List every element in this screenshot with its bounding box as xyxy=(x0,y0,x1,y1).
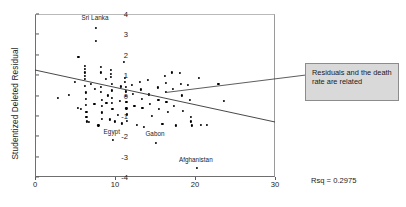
data-point xyxy=(165,91,167,93)
data-point xyxy=(94,88,96,90)
data-point xyxy=(141,98,143,100)
data-point xyxy=(167,111,169,113)
data-point xyxy=(101,105,103,107)
data-point xyxy=(180,83,182,85)
data-points-layer xyxy=(36,15,274,176)
data-point xyxy=(164,75,166,77)
data-point xyxy=(172,88,174,90)
data-point xyxy=(191,124,193,126)
data-point xyxy=(84,78,86,80)
data-point xyxy=(196,167,198,169)
y-tick-label: 1 xyxy=(98,71,128,80)
data-point xyxy=(200,124,202,126)
data-point xyxy=(68,94,70,96)
y-tick-mark xyxy=(36,176,39,177)
y-tick-mark xyxy=(36,54,39,55)
x-tick-label: 30 xyxy=(260,180,290,189)
data-point xyxy=(190,120,192,122)
data-point xyxy=(223,100,225,102)
data-point xyxy=(181,94,183,96)
data-point xyxy=(187,84,189,86)
y-tick-label: 0 xyxy=(98,91,128,100)
data-point xyxy=(217,83,219,85)
data-point xyxy=(140,88,142,90)
data-point xyxy=(139,81,141,83)
data-point xyxy=(88,121,90,123)
x-tick-mark xyxy=(195,177,196,180)
rsq-label: Rsq = 0.2975 xyxy=(311,176,356,185)
data-point xyxy=(119,100,121,102)
data-point xyxy=(132,93,134,95)
data-point xyxy=(85,111,87,113)
data-point xyxy=(84,64,86,66)
data-point xyxy=(97,124,99,126)
data-point xyxy=(158,108,160,110)
data-point xyxy=(95,40,97,42)
data-point xyxy=(173,105,175,107)
scatter-plot-figure: Studentized Deleted Residual 43210-1-2-3… xyxy=(0,0,406,207)
data-point xyxy=(74,81,76,83)
data-point xyxy=(136,124,138,126)
data-point xyxy=(77,56,79,58)
y-tick-label: -1 xyxy=(98,111,128,120)
x-tick-mark xyxy=(115,177,116,180)
data-point xyxy=(157,99,159,101)
y-tick-mark xyxy=(36,95,39,96)
data-point xyxy=(105,102,107,104)
y-tick-mark xyxy=(36,75,39,76)
data-point xyxy=(151,115,153,117)
y-tick-mark xyxy=(36,13,39,14)
y-axis-label: Studentized Deleted Residual xyxy=(10,0,22,207)
data-point xyxy=(111,102,113,104)
data-point xyxy=(100,86,102,88)
data-point xyxy=(85,91,87,93)
y-tick-mark xyxy=(36,136,39,137)
data-point xyxy=(206,124,208,126)
data-point xyxy=(125,86,127,88)
data-point xyxy=(111,83,113,85)
data-point xyxy=(125,107,127,109)
data-point xyxy=(161,123,163,125)
x-tick-mark xyxy=(35,177,36,180)
data-point xyxy=(148,93,150,95)
data-point xyxy=(147,79,149,81)
data-point xyxy=(95,27,97,29)
x-tick-label: 0 xyxy=(20,180,50,189)
y-tick-mark xyxy=(36,156,39,157)
data-point xyxy=(131,84,133,86)
data-point xyxy=(93,103,95,105)
data-point xyxy=(125,101,127,103)
x-tick-label: 20 xyxy=(180,180,210,189)
callout-box: Residuals and the death rate are related xyxy=(305,63,399,101)
data-point xyxy=(165,101,167,103)
data-point xyxy=(171,71,173,73)
data-point xyxy=(143,126,145,128)
data-point xyxy=(124,81,126,83)
data-point xyxy=(155,142,157,144)
data-point xyxy=(84,68,86,70)
data-point xyxy=(77,107,79,109)
data-point xyxy=(90,83,92,85)
y-tick-mark xyxy=(36,34,39,35)
data-point xyxy=(85,104,87,106)
data-point xyxy=(121,122,123,124)
data-point xyxy=(179,72,181,74)
data-point xyxy=(84,71,86,73)
point-label: Gabon xyxy=(145,130,164,137)
data-point xyxy=(133,105,135,107)
y-tick-label: 3 xyxy=(98,30,128,39)
data-point xyxy=(123,61,125,63)
data-point xyxy=(84,75,86,77)
point-label: Sri Lanka xyxy=(81,14,108,21)
data-point xyxy=(198,77,200,79)
data-point xyxy=(100,66,102,68)
x-tick-label: 10 xyxy=(100,180,130,189)
data-point xyxy=(120,85,122,87)
data-point xyxy=(111,108,113,110)
plot-area xyxy=(35,14,275,177)
y-tick-label: 2 xyxy=(98,50,128,59)
data-point xyxy=(85,97,87,99)
data-point xyxy=(189,98,191,100)
data-point xyxy=(165,82,167,84)
data-point xyxy=(141,107,143,109)
